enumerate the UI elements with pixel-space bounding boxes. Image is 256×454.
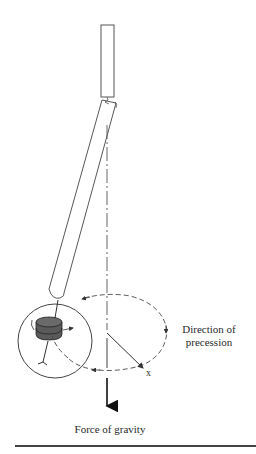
pendulum-rod [49, 100, 116, 298]
gyroscope-diagram: x [0, 0, 256, 454]
spin-arrow-icon [31, 320, 34, 330]
x-label: x [146, 367, 151, 378]
precession-path [52, 294, 167, 370]
spin-arrow-right-icon [63, 328, 73, 330]
gyro-disk [36, 317, 62, 340]
gravity-label: Force of gravity [60, 423, 160, 436]
precession-label: Direction of precession [178, 323, 240, 349]
bottom-rule [15, 445, 256, 447]
support-bar [101, 25, 114, 97]
x-direction-arrow [107, 333, 143, 368]
